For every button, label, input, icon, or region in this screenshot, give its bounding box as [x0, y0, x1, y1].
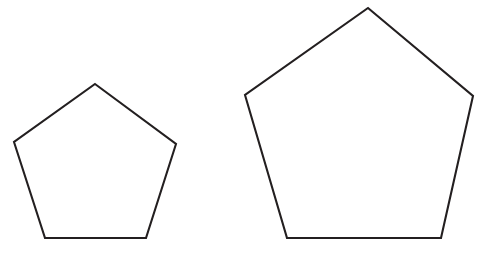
large-pentagon-shape — [245, 8, 473, 238]
figure-canvas: Two similar regular pentagons — [0, 0, 482, 267]
pentagons-diagram: Two similar regular pentagons — [0, 0, 482, 267]
small-pentagon-shape — [14, 84, 176, 238]
